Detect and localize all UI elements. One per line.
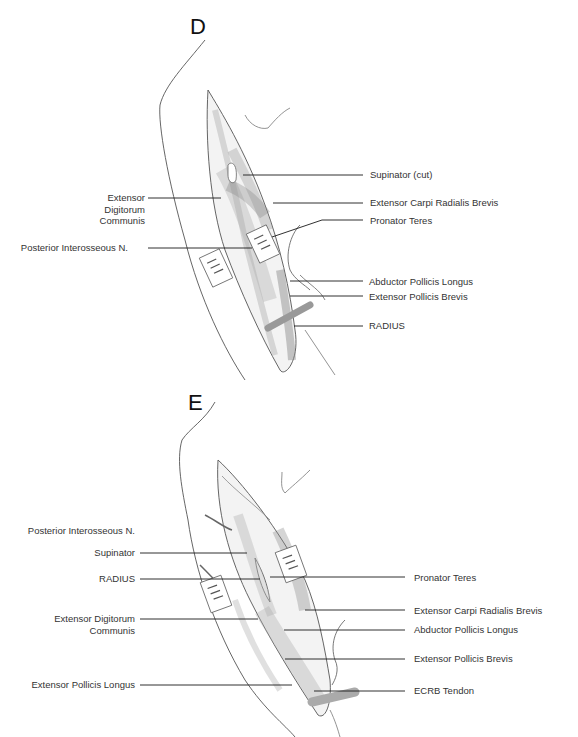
label-pronator-teres-e: Pronator Teres	[414, 572, 476, 584]
label-abductor-pollicis-longus-d: Abductor Pollicis Longus	[369, 276, 473, 288]
retractor-icon	[200, 575, 232, 613]
label-extensor-pollicis-brevis-e: Extensor Pollicis Brevis	[414, 653, 513, 665]
label-supinator-cut-d: Supinator (cut)	[370, 169, 432, 181]
panel-d: D	[0, 0, 578, 380]
label-line: Digitorum	[100, 204, 145, 216]
label-extensor-pollicis-longus-e: Extensor Pollicis Longus	[32, 679, 136, 691]
label-extensor-digitorum-communis-e: Extensor Digitorum Communis	[54, 613, 135, 636]
label-line: Communis	[100, 215, 145, 227]
label-line: Extensor Digitorum	[54, 613, 135, 625]
label-pronator-teres-d: Pronator Teres	[370, 215, 432, 227]
label-extensor-digitorum-communis-d: Extensor Digitorum Communis	[100, 192, 145, 227]
label-ecrb-d: Extensor Carpi Radialis Brevis	[370, 197, 498, 209]
label-posterior-interosseous-n-e: Posterior Interosseous N.	[28, 525, 135, 537]
panel-e: E	[0, 380, 578, 737]
label-ecrb-tendon-e: ECRB Tendon	[414, 685, 474, 697]
label-abductor-pollicis-longus-e: Abductor Pollicis Longus	[414, 624, 518, 636]
forearm-illustration-d	[0, 0, 578, 380]
label-radius-e: RADIUS	[99, 573, 135, 585]
label-radius-d: RADIUS	[369, 320, 405, 332]
label-ecrb-e: Extensor Carpi Radialis Brevis	[414, 605, 542, 617]
label-extensor-pollicis-brevis-d: Extensor Pollicis Brevis	[369, 291, 468, 303]
label-posterior-interosseous-n-d: Posterior Interosseous N.	[21, 242, 128, 254]
label-supinator-e: Supinator	[94, 547, 135, 559]
label-line: Communis	[54, 625, 135, 637]
label-line: Extensor	[100, 192, 145, 204]
